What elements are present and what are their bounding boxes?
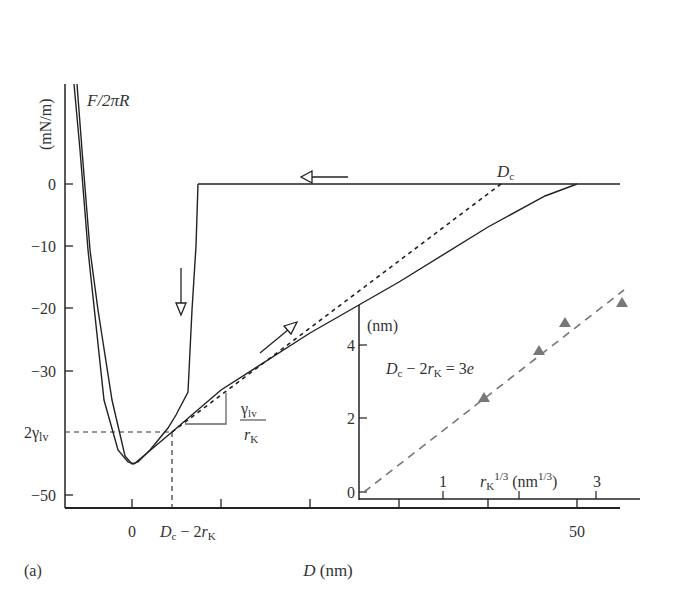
inset-y-ticks bbox=[359, 345, 367, 492]
svg-text:−10: −10 bbox=[31, 238, 56, 255]
svg-text:−30: −30 bbox=[31, 363, 56, 380]
arrow-left-icon bbox=[301, 171, 348, 183]
svg-text:−50: −50 bbox=[31, 487, 56, 504]
y-axis-unit: (mN/m) bbox=[37, 98, 55, 150]
svg-text:0: 0 bbox=[347, 484, 355, 501]
x-tick-50: 50 bbox=[569, 523, 585, 540]
retraction-curve bbox=[74, 84, 577, 464]
svg-text:0: 0 bbox=[48, 176, 56, 193]
svg-text:4: 4 bbox=[347, 337, 355, 354]
Dc-label: Dc bbox=[496, 162, 514, 182]
approach-curve bbox=[77, 84, 198, 464]
inset-fit-line bbox=[364, 290, 624, 492]
inset-x-ticks bbox=[443, 491, 596, 499]
y-label-2gamma-lv: 2γlv bbox=[24, 424, 48, 444]
inset-y-tick-labels: 0 2 4 bbox=[347, 337, 355, 501]
svg-text:2: 2 bbox=[347, 410, 355, 427]
arrow-up-right-icon bbox=[260, 322, 297, 353]
slope-label: γlv rK bbox=[240, 400, 266, 445]
x-label-Dc-minus-2rK: Dc − 2rK bbox=[159, 523, 216, 542]
svg-text:rK: rK bbox=[244, 426, 258, 445]
inset-equation: Dc − 2rK = 3e bbox=[385, 360, 474, 379]
inset-x-tick-3: 3 bbox=[593, 473, 601, 490]
inset-y-axis-title: (nm) bbox=[367, 317, 398, 335]
arrow-down-icon bbox=[176, 268, 186, 315]
x-tick-0: 0 bbox=[128, 523, 136, 540]
inset-x-tick-1: 1 bbox=[439, 473, 447, 490]
slope-triangle bbox=[185, 393, 226, 424]
inset-x-axis-title: rK1/3 (nm1/3) bbox=[480, 470, 557, 492]
y-axis-quantity: F/2πR bbox=[86, 91, 130, 110]
panel-label: (a) bbox=[24, 562, 42, 580]
svg-text:−20: −20 bbox=[31, 300, 56, 317]
main-y-ticks bbox=[65, 184, 73, 495]
svg-text:γlv: γlv bbox=[240, 400, 257, 419]
figure: 0 −10 −20 −30 −50 2γlv 0 50 Dc − 2rK D (… bbox=[0, 0, 678, 603]
x-axis-title: D (nm) bbox=[302, 561, 353, 580]
linear-fit-dashed bbox=[172, 184, 501, 432]
main-y-tick-labels: 0 −10 −20 −30 −50 bbox=[31, 176, 56, 504]
